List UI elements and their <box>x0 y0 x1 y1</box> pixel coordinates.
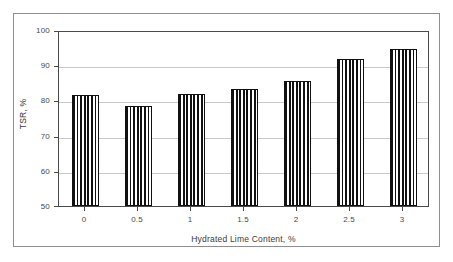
x-tick-label: 2.5 <box>329 215 369 224</box>
y-tick-label: 50 <box>24 203 50 211</box>
y-tick-label: 90 <box>24 62 50 70</box>
x-tick-mark <box>243 207 244 211</box>
x-tick-label: 3 <box>382 215 422 224</box>
gridline-90 <box>59 67 428 68</box>
x-tick-label: 1 <box>170 215 210 224</box>
x-tick-label: 1.5 <box>223 215 263 224</box>
bar-2.5[interactable] <box>337 59 364 206</box>
figure-frame: TSR, % 100 90 80 70 60 50 <box>13 13 440 247</box>
bar-1[interactable] <box>178 94 205 206</box>
bar-0.5[interactable] <box>125 106 152 206</box>
x-tick-mark <box>137 207 138 211</box>
y-tick-label: 80 <box>24 97 50 105</box>
plot-area <box>58 31 429 207</box>
bar-1.5[interactable] <box>231 89 258 206</box>
x-tick-mark <box>84 207 85 211</box>
x-axis: 0 0.5 1 1.5 2 2.5 3 Hydrated Lime Conten… <box>58 207 429 247</box>
x-tick-mark <box>349 207 350 211</box>
x-tick-label: 0.5 <box>117 215 157 224</box>
y-tick-label: 100 <box>24 27 50 35</box>
x-tick-mark <box>190 207 191 211</box>
x-tick-mark <box>402 207 403 211</box>
x-axis-title: Hydrated Lime Content, % <box>58 234 429 244</box>
bar-chart: TSR, % 100 90 80 70 60 50 <box>14 14 441 248</box>
y-tick-label: 70 <box>24 133 50 141</box>
bar-2[interactable] <box>284 81 311 206</box>
bar-3[interactable] <box>390 49 417 206</box>
y-tick-label: 60 <box>24 168 50 176</box>
bar-0[interactable] <box>72 95 99 206</box>
x-tick-mark <box>296 207 297 211</box>
x-tick-label: 2 <box>276 215 316 224</box>
x-tick-label: 0 <box>64 215 104 224</box>
y-axis: TSR, % 100 90 80 70 60 50 <box>14 31 58 207</box>
